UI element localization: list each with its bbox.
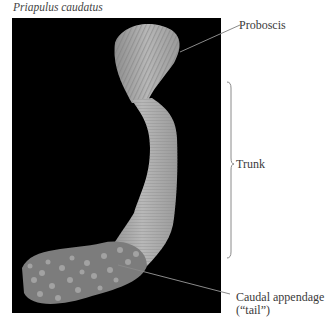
label-caudal-tail: (“tail”) [236,304,270,317]
trunk-brace [227,82,234,258]
label-proboscis: Proboscis [239,19,286,32]
label-trunk: Trunk [236,158,265,171]
callout-lines [0,0,333,332]
proboscis-leader-line [180,25,240,52]
caudal-leader-line [118,265,230,294]
